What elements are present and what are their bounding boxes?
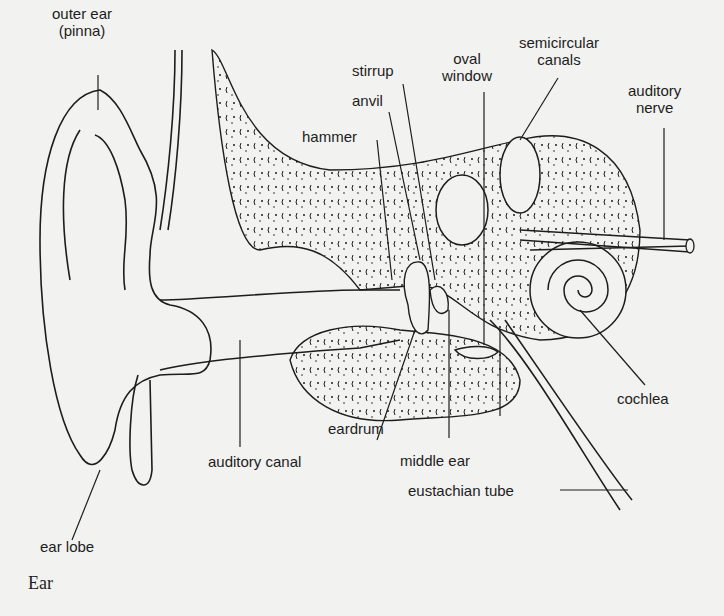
label-middle-ear: middle ear bbox=[400, 452, 470, 469]
label-outer-ear: outer ear (pinna) bbox=[52, 5, 112, 39]
label-hammer: hammer bbox=[302, 128, 357, 145]
label-anvil: anvil bbox=[352, 92, 383, 109]
label-stirrup: stirrup bbox=[352, 62, 394, 79]
label-outer-ear-line2: (pinna) bbox=[52, 22, 112, 39]
label-semicircular-canals-line2: canals bbox=[519, 51, 599, 68]
label-oval-window: oval window bbox=[442, 50, 492, 84]
cochlea-spiral bbox=[530, 242, 626, 338]
pinna-outline bbox=[40, 90, 211, 465]
figure-caption: Ear bbox=[28, 573, 53, 594]
label-auditory-nerve-line2: nerve bbox=[628, 99, 681, 116]
label-outer-ear-line1: outer ear bbox=[52, 5, 112, 22]
label-eardrum: eardrum bbox=[328, 420, 384, 437]
label-semicircular-canals: semicircular canals bbox=[519, 34, 599, 68]
label-auditory-nerve-line1: auditory bbox=[628, 82, 681, 99]
label-eustachian-tube: eustachian tube bbox=[408, 482, 514, 499]
label-cochlea: cochlea bbox=[617, 390, 669, 407]
temporal-bone-lower bbox=[290, 326, 520, 420]
label-auditory-canal: auditory canal bbox=[208, 453, 301, 470]
label-oval-window-line1: oval bbox=[442, 50, 492, 67]
label-auditory-nerve: auditory nerve bbox=[628, 82, 681, 116]
label-semicircular-canals-line1: semicircular bbox=[519, 34, 599, 51]
label-ear-lobe: ear lobe bbox=[40, 538, 94, 555]
label-oval-window-line2: window bbox=[442, 67, 492, 84]
